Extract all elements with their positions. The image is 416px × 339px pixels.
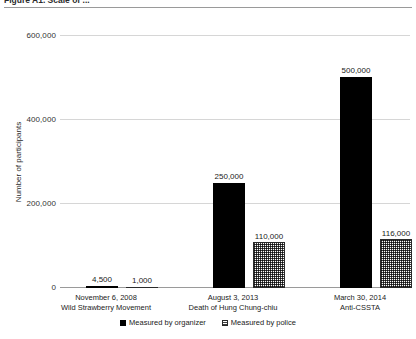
figure-caption: Figure A1. Scale of ... <box>4 0 90 7</box>
legend-item-organizer[interactable]: Measured by organizer <box>120 318 206 327</box>
bar-police-2013[interactable]: 110,000 <box>253 242 285 288</box>
y-tick-label-200000: 200,000 <box>4 199 56 208</box>
chart-legend: Measured by organizer Measured by police <box>0 318 416 327</box>
legend-swatch-organizer-icon <box>120 320 126 326</box>
legend-label-organizer: Measured by organizer <box>129 318 206 327</box>
bar-police-2008[interactable]: 1,000 <box>126 287 158 288</box>
x-category-event-3: Anti-CSSTA <box>300 303 416 313</box>
x-category-event-1: Wild Strawberry Movement <box>46 303 166 313</box>
x-category-label-3: March 30, 2014 Anti-CSSTA <box>300 293 416 313</box>
bar-organizer-2014[interactable]: 500,000 <box>340 77 372 288</box>
y-tick-label-400000: 400,000 <box>4 115 56 124</box>
bar-group-wild-strawberry: 4,500 1,000 <box>86 35 158 288</box>
x-category-date-1: November 6, 2008 <box>46 293 166 303</box>
plot-area: 4,500 1,000 250,000 110,000 500,000 116,… <box>60 35 410 288</box>
legend-label-police: Measured by police <box>231 318 296 327</box>
bar-value-police-2014: 116,000 <box>382 229 410 238</box>
bar-group-hung-chung-chiu: 250,000 110,000 <box>213 35 285 288</box>
caption-divider <box>4 7 412 8</box>
legend-item-police[interactable]: Measured by police <box>222 318 296 327</box>
x-category-date-2: August 3, 2013 <box>173 293 293 303</box>
bar-group-anti-csstA: 500,000 116,000 <box>340 35 412 288</box>
y-tick-label-0: 0 <box>4 283 56 292</box>
bar-value-organizer-2008: 4,500 <box>92 275 112 284</box>
bar-value-organizer-2013: 250,000 <box>215 172 244 181</box>
y-tick-label-600000: 600,000 <box>4 31 56 40</box>
chart-container: Number of participants 600,000 400,000 2… <box>0 10 416 339</box>
x-category-event-2: Death of Hung Chung-chiu <box>173 303 293 313</box>
x-category-date-3: March 30, 2014 <box>300 293 416 303</box>
bar-organizer-2013[interactable]: 250,000 <box>213 183 245 288</box>
legend-swatch-police-icon <box>222 320 228 326</box>
bar-value-police-2013: 110,000 <box>255 232 283 241</box>
y-axis: Number of participants <box>0 35 60 288</box>
x-category-label-2: August 3, 2013 Death of Hung Chung-chiu <box>173 293 293 313</box>
bar-police-2014[interactable]: 116,000 <box>380 239 412 288</box>
x-category-label-1: November 6, 2008 Wild Strawberry Movemen… <box>46 293 166 313</box>
bar-organizer-2008[interactable]: 4,500 <box>86 286 118 288</box>
bar-value-organizer-2014: 500,000 <box>342 66 371 75</box>
bar-value-police-2008: 1,000 <box>132 276 152 285</box>
